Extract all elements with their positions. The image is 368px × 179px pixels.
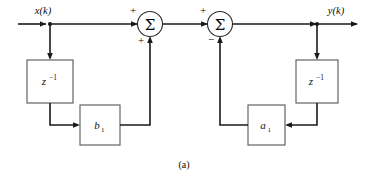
forward-wire-to-summer1 bbox=[50, 21, 138, 27]
z-inverse-right-exponent: −1 bbox=[316, 73, 324, 82]
gain-b1-subscript: 1 bbox=[101, 126, 105, 134]
output-signal-label: y(k) bbox=[327, 5, 345, 17]
summer-2-sign-top: + bbox=[200, 4, 206, 16]
a1-input-arrow-icon bbox=[285, 122, 292, 128]
wire-summer2-to-output-tap bbox=[232, 21, 317, 27]
z-inverse-left-box bbox=[27, 60, 73, 103]
b1-input-arrow-icon bbox=[73, 122, 80, 128]
summer-1-sign-bottom: + bbox=[138, 34, 144, 46]
diagram-canvas: Σ Σ + + + − z −1 b 1 a 1 z −1 x(k) bbox=[0, 0, 368, 179]
z-inverse-right-box bbox=[296, 60, 338, 103]
signal-flow-diagram: Σ Σ + + + − z −1 b 1 a 1 z −1 x(k) bbox=[0, 0, 368, 179]
gain-a1-base: a bbox=[260, 119, 266, 131]
wire-a1-to-summer2 bbox=[217, 36, 248, 125]
output-wire bbox=[317, 21, 358, 27]
wire-b1-to-summer1 bbox=[120, 36, 153, 125]
summer-2-sigma-glyph: Σ bbox=[215, 16, 226, 34]
wire-delay-right-to-a1 bbox=[285, 103, 317, 128]
z-inverse-left-exponent: −1 bbox=[49, 73, 57, 82]
z-inverse-left-base: z bbox=[41, 75, 47, 87]
summer2-input-arrow-icon bbox=[201, 21, 208, 27]
wire-delay-left-to-b1 bbox=[50, 103, 80, 128]
z-inverse-right-base: z bbox=[308, 75, 314, 87]
summer-1-sigma-glyph: Σ bbox=[145, 16, 156, 34]
wire-summer1-to-summer2 bbox=[162, 21, 208, 27]
summer-1-sign-top: + bbox=[130, 4, 136, 16]
gain-b1-box bbox=[80, 105, 120, 145]
gain-b1-base: b bbox=[94, 119, 100, 131]
figure-caption: (a) bbox=[178, 159, 189, 171]
wire-input-to-delay-left bbox=[47, 24, 53, 60]
delay-right-input-arrow-icon bbox=[314, 53, 320, 60]
gain-a1-box bbox=[248, 105, 285, 145]
input-wire bbox=[18, 21, 46, 26]
delay-left-input-arrow-icon bbox=[47, 53, 53, 60]
wire-output-to-delay-right bbox=[314, 24, 320, 60]
summer1-input-arrow-icon bbox=[131, 21, 138, 27]
gain-a1-subscript: 1 bbox=[268, 126, 272, 134]
summer-2-sign-bottom: − bbox=[208, 33, 214, 45]
input-signal-label: x(k) bbox=[34, 5, 52, 17]
output-arrow-icon bbox=[351, 21, 358, 27]
input-arrow-icon bbox=[40, 21, 46, 26]
